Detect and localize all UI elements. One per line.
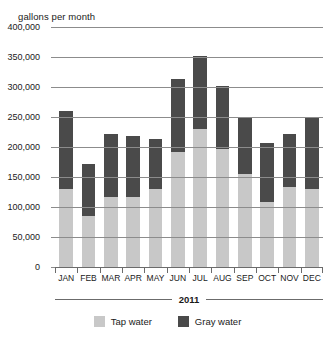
bar-segment-gray-water [82,164,96,216]
category-tick [322,267,323,273]
gridline [55,57,323,58]
gridline [55,87,323,88]
bar-segment-tap-water [82,216,96,267]
year-band: 2011 [55,292,323,306]
bar-segment-tap-water [216,149,230,267]
year-rule-right [206,299,323,300]
category-tick [301,267,302,273]
category-label-dec: DEC [303,273,321,283]
category-tick [278,267,279,273]
bar-segment-tap-water [171,152,185,267]
legend-item: Gray water [178,316,241,327]
bar-segment-gray-water [126,136,140,197]
gridline [55,27,323,28]
y-axis-tick-label: 150,000 [0,172,40,182]
y-axis-tick-label: 350,000 [0,52,40,62]
category-tick [167,267,168,273]
bar-segment-gray-water [305,117,319,189]
x-axis-label-year: 2011 [172,294,207,305]
plot-area: 400,000350,000300,000250,000200,000150,0… [55,27,323,267]
bar-segment-tap-water [149,189,163,267]
gridline [55,147,323,148]
gridline [55,117,323,118]
legend-label: Tap water [111,316,152,327]
y-axis-tick-label: 300,000 [0,82,40,92]
y-axis-tick-label: 50,000 [0,232,40,242]
y-axis-tick-label: 250,000 [0,112,40,122]
bar-segment-gray-water [260,143,274,202]
y-axis-tick [51,237,55,238]
legend-item: Tap water [94,316,152,327]
category-tick [144,267,145,273]
bar-segment-tap-water [260,202,274,267]
category-label-jan: JAN [58,273,74,283]
category-label-may: MAY [147,273,165,283]
category-tick [189,267,190,273]
category-tick [234,267,235,273]
water-usage-chart: gallons per month 400,000350,000300,0002… [0,0,335,344]
gridline [55,207,323,208]
category-label-oct: OCT [258,273,276,283]
y-axis-tick [51,57,55,58]
legend-swatch [178,316,189,327]
legend-label: Gray water [195,316,241,327]
y-axis-tick [51,117,55,118]
gridline [55,177,323,178]
y-axis-tick-label: 200,000 [0,142,40,152]
bar-segment-tap-water [193,129,207,267]
category-tick [122,267,123,273]
bar-segment-tap-water [238,174,252,267]
bar-segment-gray-water [171,79,185,152]
category-axis: JANFEBMARAPRMAYJUNJULAUGSEPOCTNOVDEC [55,267,323,289]
bar-segment-gray-water [193,56,207,129]
y-axis-tick [51,87,55,88]
category-label-nov: NOV [280,273,298,283]
category-tick [55,267,56,273]
y-axis-tick [51,27,55,28]
y-axis-tick [51,207,55,208]
y-axis-tick-label: 400,000 [0,22,40,32]
gridline [55,237,323,238]
bar-segment-tap-water [59,189,73,267]
y-axis-tick-label: 0 [0,262,40,272]
category-tick [211,267,212,273]
bar-segment-tap-water [283,187,297,267]
legend-swatch [94,316,105,327]
y-axis-tick-label: 100,000 [0,202,40,212]
category-label-sep: SEP [236,273,253,283]
year-rule-left [55,299,172,300]
y-axis-title: gallons per month [18,11,95,22]
category-label-apr: APR [124,273,141,283]
bar-segment-tap-water [305,189,319,267]
category-label-jul: JUL [193,273,208,283]
y-axis-tick [51,177,55,178]
chart-legend: Tap waterGray water [0,316,335,327]
bar-segment-gray-water [283,134,297,187]
bar-segment-gray-water [104,134,118,197]
bar-segment-gray-water [238,118,252,174]
category-label-mar: MAR [101,273,120,283]
category-label-feb: FEB [80,273,97,283]
category-tick [77,267,78,273]
category-tick [256,267,257,273]
category-label-jun: JUN [170,273,187,283]
y-axis-tick [51,147,55,148]
category-label-aug: AUG [213,273,231,283]
